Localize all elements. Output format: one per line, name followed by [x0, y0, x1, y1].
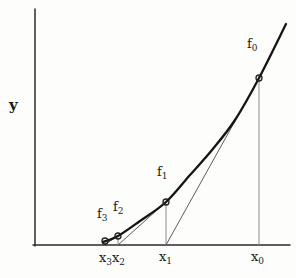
y-axis-label: y: [9, 98, 18, 113]
label-x1: x1: [159, 250, 172, 266]
label-x2: x2: [112, 251, 125, 267]
newton-method-figure: y f0 f1 f2 f3 x3 x2 x1 x0: [0, 0, 296, 278]
label-x3: x3: [99, 251, 112, 267]
label-f3: f3: [97, 207, 108, 223]
label-f0: f0: [247, 37, 258, 53]
label-x0: x0: [251, 250, 264, 266]
label-f2: f2: [113, 200, 124, 216]
label-f1: f1: [157, 165, 168, 181]
